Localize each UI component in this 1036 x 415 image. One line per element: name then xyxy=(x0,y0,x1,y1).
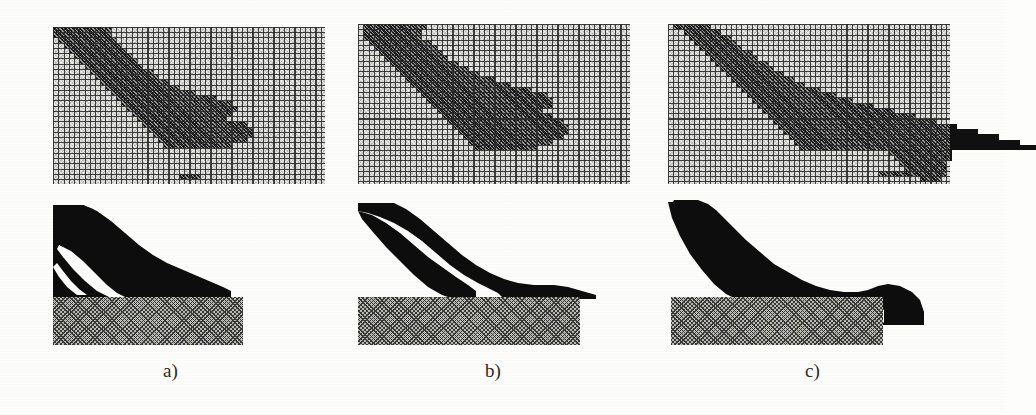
density-cell xyxy=(920,176,941,181)
panel-a-fixed-support-base xyxy=(53,297,243,345)
panel-b-density-grid xyxy=(358,24,630,184)
panel-b-caption: b) xyxy=(485,360,501,382)
panel-a-density-grid xyxy=(53,27,325,184)
density-cell xyxy=(474,145,537,150)
panel-b-fixed-support-base xyxy=(358,297,580,345)
panel-a-caption: a) xyxy=(163,360,178,382)
panel-c-fixed-support-base xyxy=(671,297,883,345)
density-cell xyxy=(163,143,231,148)
density-cell xyxy=(694,35,705,40)
panel-c-density-grid xyxy=(668,24,950,184)
panel-b-solid-cells xyxy=(358,24,630,184)
panel-c-caption: c) xyxy=(805,360,820,382)
density-cell xyxy=(195,174,200,179)
density-cell xyxy=(174,116,221,121)
panel-a-solid-cells xyxy=(53,27,325,184)
panel-c-solid-cells xyxy=(668,24,950,184)
density-cell xyxy=(479,113,526,118)
